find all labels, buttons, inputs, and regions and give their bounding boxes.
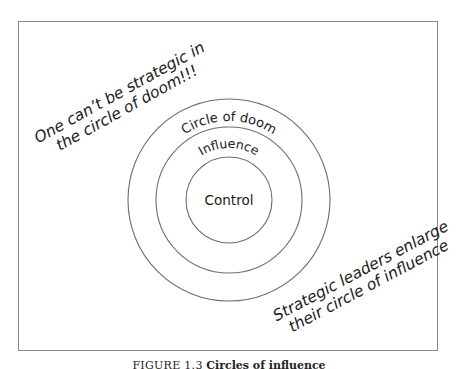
concentric-circles-diagram: Circle of doom Influence Control [0,0,458,369]
label-circle-of-doom-text: Circle of doom [178,109,279,137]
figure-title: Circles of influence [206,359,325,369]
label-influence: Influence [196,136,263,159]
label-control: Control [205,192,254,208]
label-circle-of-doom: Circle of doom [178,109,279,137]
figure-caption: FIGURE 1.3 Circles of influence [0,359,458,369]
figure-number: FIGURE 1.3 [132,359,202,369]
label-influence-text: Influence [196,136,263,159]
